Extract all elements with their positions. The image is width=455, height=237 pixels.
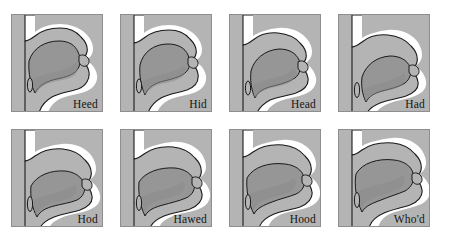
panel-label: Hawed xyxy=(173,214,207,226)
vowel-panel-heed[interactable]: Heed xyxy=(11,14,103,112)
panel-label: Hid xyxy=(189,99,207,111)
vowel-panel-hood[interactable]: Hood xyxy=(229,129,321,227)
panel-label: Hod xyxy=(78,214,98,226)
panel-label: Had xyxy=(405,99,425,111)
panel-label: Heed xyxy=(73,99,98,111)
panel-label: Hood xyxy=(290,214,316,226)
vowel-panel-had[interactable]: Had xyxy=(338,14,430,112)
vowel-panel-head[interactable]: Head xyxy=(229,14,321,112)
vowel-panel-hid[interactable]: Hid xyxy=(120,14,212,112)
panel-grid: Heed Hid xyxy=(11,14,444,227)
vowel-articulation-figure: Heed Hid xyxy=(0,0,455,237)
vowel-panel-whod[interactable]: Who'd xyxy=(338,129,430,227)
vowel-panel-hod[interactable]: Hod xyxy=(11,129,103,227)
vowel-panel-hawed[interactable]: Hawed xyxy=(120,129,212,227)
panel-label: Who'd xyxy=(394,214,425,226)
panel-label: Head xyxy=(291,99,316,111)
